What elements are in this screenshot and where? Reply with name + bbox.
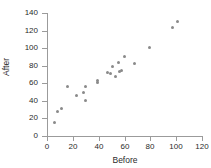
- y-tick-label: 20: [10, 114, 38, 122]
- data-point: [171, 26, 174, 29]
- x-tick: [47, 136, 48, 141]
- data-point: [84, 85, 87, 88]
- data-point: [114, 75, 117, 78]
- data-point: [66, 85, 69, 88]
- x-tick-label: 0: [35, 143, 59, 151]
- scatter-plot-figure: 020406080100120140 020406080100120 After…: [0, 0, 211, 168]
- data-point: [109, 72, 112, 75]
- x-tick: [150, 136, 151, 141]
- data-point: [96, 81, 99, 84]
- y-tick-label: 80: [10, 62, 38, 70]
- data-point: [82, 91, 85, 94]
- y-tick-label: 40: [10, 97, 38, 105]
- data-point-layer: [47, 13, 202, 136]
- data-point: [75, 94, 78, 97]
- data-point: [123, 55, 126, 58]
- x-tick: [125, 136, 126, 141]
- data-point: [53, 121, 56, 124]
- data-point: [117, 61, 120, 64]
- x-tick-label: 120: [190, 143, 211, 151]
- data-point: [176, 20, 179, 23]
- y-tick-label: 60: [10, 79, 38, 87]
- data-point: [133, 62, 136, 65]
- x-tick: [99, 136, 100, 141]
- x-tick-label: 20: [61, 143, 85, 151]
- x-tick-label: 60: [113, 143, 137, 151]
- x-tick-label: 80: [138, 143, 162, 151]
- x-tick: [176, 136, 177, 141]
- y-tick-label: 100: [10, 44, 38, 52]
- y-tick-label: 0: [10, 132, 38, 140]
- y-tick-label: 140: [10, 9, 38, 17]
- y-axis-title: After: [1, 45, 11, 89]
- data-point: [111, 65, 114, 68]
- x-tick-label: 40: [87, 143, 111, 151]
- x-tick: [202, 136, 203, 141]
- y-tick-label: 120: [10, 27, 38, 35]
- plot-area: [47, 13, 202, 136]
- data-point: [60, 107, 63, 110]
- x-tick: [73, 136, 74, 141]
- x-axis-title: Before: [47, 155, 203, 165]
- x-tick-label: 100: [164, 143, 188, 151]
- data-point: [56, 110, 59, 113]
- data-point: [148, 46, 151, 49]
- data-point: [120, 69, 123, 72]
- data-point: [84, 99, 87, 102]
